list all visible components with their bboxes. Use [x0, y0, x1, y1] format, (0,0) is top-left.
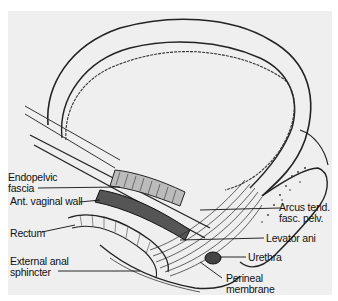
label-endopelvic-fascia: Endopelvic fascia	[8, 172, 57, 194]
label-line: sphincter	[10, 267, 69, 278]
label-line: membrane	[226, 284, 275, 295]
label-ant-vaginal-wall: Ant. vaginal wall	[10, 196, 82, 207]
label-perineal-membrane: Perineal membrane	[226, 273, 275, 295]
label-line: Ant. vaginal wall	[10, 196, 82, 207]
label-line: Levator ani	[266, 233, 316, 244]
label-external-anal-sphincter: External anal sphincter	[10, 256, 69, 278]
label-line: fascia	[8, 183, 57, 194]
label-levator-ani: Levator ani	[266, 233, 316, 244]
label-line: Rectum	[10, 228, 45, 239]
label-arcus-tendineus: Arcus tend. fasc. pelv.	[279, 202, 330, 224]
label-rectum: Rectum	[10, 228, 45, 239]
label-line: Urethra	[248, 252, 282, 263]
label-line: fasc. pelv.	[279, 213, 330, 224]
label-urethra: Urethra	[248, 252, 282, 263]
